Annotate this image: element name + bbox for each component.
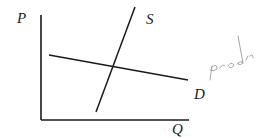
supply-demand-diagram: P Q S D (0, 0, 268, 138)
x-axis-label: Q (172, 121, 183, 137)
demand-label: D (193, 86, 205, 102)
handwritten-annotation (210, 36, 253, 80)
supply-label: S (146, 11, 154, 27)
demand-curve (49, 55, 188, 80)
supply-curve (96, 7, 135, 112)
y-axis-label: P (16, 10, 26, 26)
